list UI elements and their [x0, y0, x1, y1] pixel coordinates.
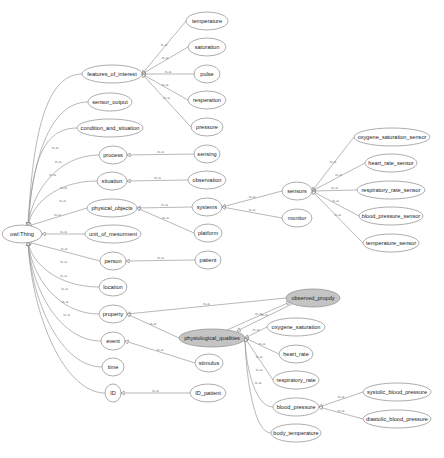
edge-label: is-a	[165, 69, 172, 74]
class-node-sensors[interactable]: sensors	[282, 182, 312, 200]
node-label: monitor	[288, 215, 307, 221]
hollow-arrow-icon	[237, 328, 241, 331]
edge-line	[28, 181, 97, 226]
class-node-blood-pressure[interactable]: blood_pressure	[273, 398, 319, 416]
edge-label: is-a	[157, 255, 164, 260]
class-node-diastolic-blood-pressure[interactable]: diastolic_blood_pressure	[363, 410, 431, 428]
class-node-location[interactable]: location	[99, 278, 127, 296]
class-node-oxygene-saturation-sensor[interactable]: oxygene_saturation_sensor	[354, 128, 430, 146]
class-node-oxygene-saturation[interactable]: oxygene_saturation	[267, 318, 325, 336]
class-node-id-patient[interactable]: ID_patient	[190, 384, 226, 402]
is-a-edge: is-a	[26, 74, 82, 226]
is-a-edge: is-a	[319, 392, 363, 408]
class-node-physiological-qualities[interactable]: physiological_qualities	[179, 329, 245, 347]
edge-label: is-a	[150, 321, 157, 326]
node-label: observation	[193, 177, 222, 183]
hollow-arrow-icon	[127, 179, 130, 183]
node-label: property	[103, 311, 124, 317]
class-node-platform[interactable]: platform	[194, 224, 222, 242]
edge-label: is-a	[334, 212, 341, 217]
node-label: respiratory_rate	[276, 377, 315, 383]
node-label: ID_patient	[195, 390, 221, 396]
is-a-edge: is-a	[27, 181, 97, 226]
class-node-sensor-output[interactable]: sensor_output	[88, 93, 132, 111]
class-node-body-temperature[interactable]: body_temperature	[271, 424, 321, 442]
is-a-edge: is-a	[26, 242, 105, 393]
class-node-pulse[interactable]: pulse	[194, 65, 220, 83]
edge-label: is-a	[203, 301, 210, 306]
class-node-temperature-sensor[interactable]: temperature_sensor	[363, 234, 419, 252]
edge-label: is-a	[335, 172, 342, 177]
edge-label: is-a	[162, 55, 169, 60]
node-label: process	[103, 152, 123, 158]
edge-line	[126, 260, 195, 261]
class-node-saturation[interactable]: saturation	[188, 38, 226, 56]
class-node-owl-thing[interactable]: owl:Thing	[2, 225, 42, 243]
hollow-arrow-icon	[127, 314, 131, 317]
is-a-edge: is-a	[26, 102, 88, 226]
class-node-stimulus[interactable]: stimulus	[195, 354, 223, 372]
class-node-unit-of-mesurment[interactable]: unit_of_mesurment	[85, 225, 141, 243]
class-node-heart-rate[interactable]: heart_rate	[279, 345, 313, 363]
class-node-systems[interactable]: systems	[192, 198, 222, 216]
class-node-observation[interactable]: observation	[188, 171, 226, 189]
class-node-observed-propdy[interactable]: observed_propdy	[286, 289, 340, 307]
class-node-blood-pressure-sensor[interactable]: blood_pressure_sensor	[359, 207, 423, 225]
edge-label: is-a	[338, 408, 345, 413]
class-node-temperature[interactable]: temperature	[186, 12, 228, 30]
edge-label: is-a	[331, 185, 338, 190]
node-label: heart_rate	[283, 351, 309, 357]
class-node-event[interactable]: event	[101, 332, 125, 350]
node-label: oxygene_saturation	[272, 324, 321, 330]
is-a-edge: is-a	[125, 340, 195, 363]
node-label: heart_rate_sensor	[368, 160, 414, 166]
ontology-graph: is-ais-ais-ais-ais-ais-ais-ais-ais-ais-a…	[0, 0, 444, 458]
node-label: temperature_sensor	[366, 240, 416, 246]
edge-label: is-a	[253, 327, 260, 332]
is-a-edge: is-a	[244, 338, 271, 433]
class-node-patient[interactable]: patient	[195, 251, 221, 269]
edge-label: is-a	[338, 394, 345, 399]
node-label: sensors	[287, 188, 307, 194]
class-node-physical-objects[interactable]: physical_objects	[87, 199, 137, 217]
class-node-process[interactable]: process	[99, 146, 127, 164]
class-node-respiratory-rate[interactable]: respiratory_rate	[273, 371, 319, 389]
class-node-features-of-interest[interactable]: features_of_interest	[82, 65, 142, 83]
node-label: physical_objects	[91, 205, 132, 211]
is-a-edge: is-a	[28, 241, 100, 261]
node-label: temperature	[192, 18, 222, 24]
edge-label: is-a	[63, 312, 70, 317]
class-node-monitor[interactable]: monitor	[282, 209, 312, 227]
node-label: time	[108, 364, 119, 370]
node-label: features_of_interest	[87, 71, 137, 77]
class-node-person[interactable]: person	[100, 252, 126, 270]
nodes-layer: owl:Thingfeatures_of_interestsensor_outp…	[2, 12, 431, 442]
node-label: respiratory_rate_sensor	[361, 187, 420, 193]
class-node-resperation[interactable]: resperation	[188, 91, 226, 109]
is-a-edge: is-a	[26, 242, 101, 341]
edge-label: is-a	[330, 159, 337, 164]
class-node-id[interactable]: ID	[105, 384, 121, 402]
class-node-sensing[interactable]: sensing	[194, 145, 220, 163]
class-node-respiratory-rate-sensor[interactable]: respiratory_rate_sensor	[357, 181, 425, 199]
edge-label: is-a	[255, 380, 262, 385]
node-label: sensing	[197, 151, 216, 157]
node-label: location	[103, 284, 122, 290]
class-node-heart-rate-sensor[interactable]: heart_rate_sensor	[365, 154, 417, 172]
class-node-systolic-blood-pressure[interactable]: systolic_blood_pressure	[363, 383, 431, 401]
edge-label: is-a	[59, 198, 66, 203]
edge-label: is-a	[161, 202, 168, 207]
edge-label: is-a	[60, 229, 67, 234]
is-a-edge: is-a	[222, 191, 282, 208]
class-node-pressure[interactable]: pressure	[191, 118, 223, 136]
node-label: situation	[102, 178, 123, 184]
edge-line	[137, 208, 194, 233]
hollow-arrow-icon	[42, 232, 45, 236]
node-label: body_temperature	[273, 430, 318, 436]
class-node-property[interactable]: property	[99, 305, 127, 323]
is-a-edge: is-a	[312, 137, 354, 191]
class-node-situation[interactable]: situation	[97, 172, 127, 190]
class-node-time[interactable]: time	[102, 358, 124, 376]
class-node-condition-and-situation[interactable]: condition_and_situation	[77, 119, 143, 137]
is-a-edge: is-a	[312, 163, 365, 191]
